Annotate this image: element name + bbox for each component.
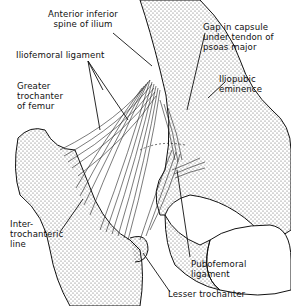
label-pubofemoral-ligament: Pubofemoral ligament — [191, 259, 246, 279]
label-iliofemoral-ligament: Iliofemoral ligament — [16, 50, 104, 60]
label-iliopubic-eminence: Iliopubic eminence — [219, 74, 262, 94]
label-anterior-inferior-spine: Anterior inferior spine of ilium — [48, 9, 118, 29]
label-lesser-trochanter: Lesser trochanter — [168, 289, 245, 299]
label-gap-in-capsule: Gap in capsule under tendon of psoas maj… — [203, 22, 274, 52]
label-greater-trochanter: Greater trochanter of femur — [17, 81, 63, 111]
anatomy-figure: Anterior inferior spine of ilium Iliofem… — [0, 0, 291, 306]
label-intertrochanteric-line: Inter- trochanteric line — [10, 219, 63, 249]
